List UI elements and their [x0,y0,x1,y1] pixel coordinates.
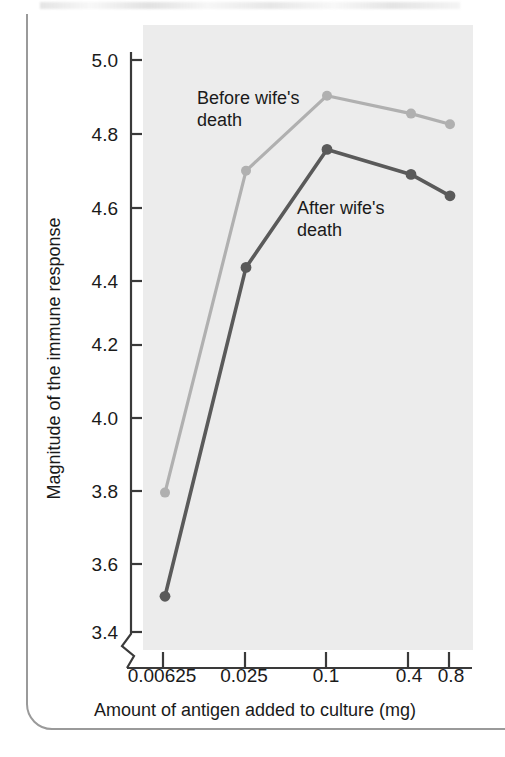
data-point [406,109,416,119]
y-axis-break-icon [122,627,134,668]
data-point [241,262,252,273]
data-point [160,591,171,602]
y-axis-ticks [131,60,142,632]
data-point [406,169,417,180]
data-point [241,166,251,176]
data-point [160,488,170,498]
data-point [322,144,333,155]
series-after-wifes-death [160,144,456,602]
data-point [445,119,455,129]
chart-graphics [0,0,505,757]
data-point [445,190,456,201]
immune-response-line-chart: 5.0 4.8 4.6 4.4 4.2 4.0 3.8 3.6 3.4 0.00… [0,0,505,757]
x-axis-ticks [163,652,449,668]
data-point [322,91,332,101]
